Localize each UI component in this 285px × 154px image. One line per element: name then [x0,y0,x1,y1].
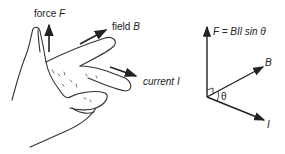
force-equation: F = BIl sin θ [213,26,266,37]
i-label: I [267,119,270,130]
current-arrow [110,67,136,76]
theta-label: θ [221,91,227,102]
field-label: field B [112,21,140,32]
current-label: current I [143,76,180,87]
angle-arc [217,91,219,101]
b-vector [207,67,263,97]
fleming-left-hand-diagram: force F field B current I θ F = BIl sin … [0,0,285,154]
hand-illustration [12,27,131,147]
right-angle-mark [207,88,213,94]
i-vector [207,97,264,120]
b-label: B [265,57,272,68]
vector-diagram: θ F = BIl sin θ B I [207,26,272,130]
force-label: force F [34,8,66,19]
